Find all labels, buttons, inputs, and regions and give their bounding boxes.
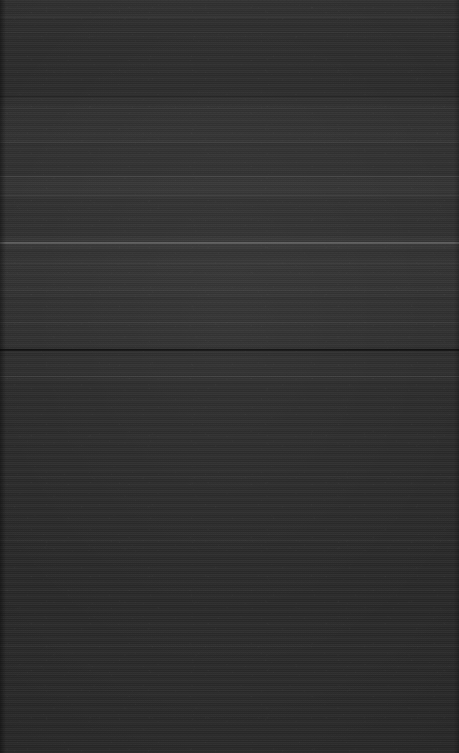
screen-capture <box>0 0 459 753</box>
screen-background <box>0 0 459 753</box>
